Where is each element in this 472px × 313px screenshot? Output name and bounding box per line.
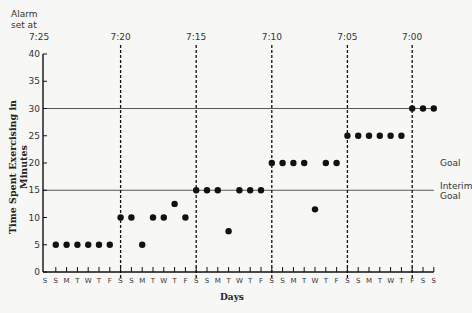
x-tick-label: S — [118, 277, 123, 285]
data-point — [150, 214, 156, 220]
x-tick-label: M — [290, 277, 296, 285]
data-point — [96, 242, 102, 248]
data-point — [236, 187, 242, 193]
interim-goal-label-line1: Interim — [440, 181, 472, 191]
x-tick-label: F — [410, 277, 414, 285]
x-tick-label: S — [345, 277, 350, 285]
alarm-header-line1: Alarm — [11, 9, 37, 19]
data-point — [290, 160, 296, 166]
data-point — [247, 187, 253, 193]
x-tick-label: T — [150, 277, 156, 285]
data-point — [323, 160, 329, 166]
alarm-header-line2: set at — [11, 20, 37, 30]
x-tick-label: W — [236, 277, 243, 285]
x-tick-label: T — [96, 277, 102, 285]
data-point — [161, 214, 167, 220]
x-tick-label: M — [366, 277, 372, 285]
data-point — [344, 133, 350, 139]
data-point — [409, 105, 415, 111]
data-point — [204, 187, 210, 193]
phase-label: 7:05 — [337, 32, 357, 42]
x-tick-label: F — [183, 277, 187, 285]
data-point — [63, 242, 69, 248]
phase-label: 7:20 — [110, 32, 130, 42]
y-tick-label: 15 — [29, 185, 40, 195]
x-tick-label: T — [247, 277, 253, 285]
data-point — [182, 214, 188, 220]
x-tick-label: T — [74, 277, 80, 285]
x-tick-label: W — [160, 277, 167, 285]
phase-label: 7:15 — [186, 32, 206, 42]
data-point — [387, 133, 393, 139]
x-tick-label: F — [108, 277, 112, 285]
x-tick-label: T — [398, 277, 404, 285]
data-point — [279, 160, 285, 166]
y-tick-label: 35 — [29, 76, 40, 86]
data-point — [355, 133, 361, 139]
data-point — [85, 242, 91, 248]
x-tick-label: S — [270, 277, 275, 285]
y-axis-label: Time Spent Exercising in Minutes — [7, 87, 29, 247]
data-point — [269, 160, 275, 166]
y-tick-label: 20 — [29, 158, 41, 168]
y-tick-label: 40 — [29, 49, 41, 59]
x-tick-label: T — [225, 277, 231, 285]
data-point — [333, 160, 339, 166]
y-tick-label: 25 — [29, 131, 40, 141]
data-point — [258, 187, 264, 193]
x-tick-label: T — [171, 277, 177, 285]
interim-goal-label-line2: Goal — [440, 191, 461, 201]
x-tick-label: M — [139, 277, 145, 285]
x-tick-label: S — [356, 277, 361, 285]
goal-label: Goal — [440, 158, 461, 168]
data-point — [431, 105, 437, 111]
phase-label: 7:10 — [262, 32, 282, 42]
x-tick-label: S — [43, 277, 48, 285]
x-tick-label: T — [301, 277, 307, 285]
data-point — [139, 242, 145, 248]
x-tick-label: F — [335, 277, 339, 285]
y-tick-label: 5 — [34, 240, 40, 250]
data-point — [301, 160, 307, 166]
x-tick-label: S — [54, 277, 59, 285]
y-tick-label: 10 — [29, 213, 41, 223]
data-point — [117, 214, 123, 220]
x-tick-label: S — [129, 277, 134, 285]
data-point — [398, 133, 404, 139]
phase-label: 7:25 — [29, 32, 49, 42]
x-tick-label: T — [323, 277, 329, 285]
x-tick-label: S — [194, 277, 199, 285]
data-point — [377, 133, 383, 139]
x-tick-label: W — [312, 277, 319, 285]
data-point — [366, 133, 372, 139]
x-tick-label: S — [432, 277, 437, 285]
data-point — [225, 228, 231, 234]
phase-label: 7:00 — [402, 32, 422, 42]
data-point — [107, 242, 113, 248]
data-point — [171, 201, 177, 207]
data-point — [128, 214, 134, 220]
data-point — [420, 105, 426, 111]
data-point — [53, 242, 59, 248]
data-point — [193, 187, 199, 193]
y-tick-label: 0 — [34, 267, 40, 277]
x-tick-label: T — [377, 277, 383, 285]
data-point — [215, 187, 221, 193]
x-tick-label: S — [280, 277, 285, 285]
x-tick-label: W — [85, 277, 92, 285]
data-point — [74, 242, 80, 248]
x-axis-label: Days — [220, 292, 244, 302]
x-tick-label: S — [205, 277, 210, 285]
x-tick-label: W — [387, 277, 394, 285]
data-point — [312, 206, 318, 212]
y-tick-label: 30 — [29, 104, 41, 114]
x-tick-label: M — [64, 277, 70, 285]
x-tick-label: M — [215, 277, 221, 285]
x-tick-label: S — [421, 277, 426, 285]
x-tick-label: F — [259, 277, 263, 285]
